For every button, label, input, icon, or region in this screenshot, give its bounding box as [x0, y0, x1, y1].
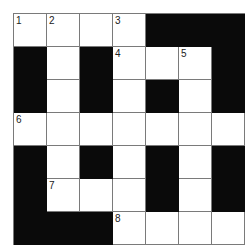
- crossword-cell[interactable]: 3: [113, 14, 146, 47]
- black-square: [212, 47, 245, 80]
- crossword-cell[interactable]: [212, 212, 245, 245]
- crossword-cell[interactable]: 8: [113, 212, 146, 245]
- crossword-cell[interactable]: [146, 212, 179, 245]
- crossword-cell[interactable]: [113, 146, 146, 179]
- crossword-cell[interactable]: [113, 113, 146, 146]
- crossword-cell[interactable]: 4: [113, 47, 146, 80]
- black-square: [146, 179, 179, 212]
- black-square: [80, 146, 113, 179]
- clue-number: 3: [115, 15, 121, 26]
- black-square: [14, 179, 47, 212]
- crossword-cell[interactable]: [47, 146, 80, 179]
- black-square: [212, 14, 245, 47]
- crossword-cell[interactable]: [212, 113, 245, 146]
- crossword-cell[interactable]: [179, 80, 212, 113]
- crossword-cell[interactable]: [146, 113, 179, 146]
- black-square: [14, 47, 47, 80]
- crossword-cell[interactable]: 6: [14, 113, 47, 146]
- black-square: [212, 146, 245, 179]
- clue-number: 4: [115, 48, 121, 59]
- crossword-cell[interactable]: [80, 179, 113, 212]
- black-square: [146, 80, 179, 113]
- crossword-cell[interactable]: [47, 47, 80, 80]
- crossword-cell[interactable]: [80, 113, 113, 146]
- black-square: [80, 47, 113, 80]
- black-square: [14, 80, 47, 113]
- crossword-cell[interactable]: [179, 212, 212, 245]
- black-square: [179, 14, 212, 47]
- crossword-cell[interactable]: [179, 113, 212, 146]
- black-square: [212, 80, 245, 113]
- black-square: [80, 212, 113, 245]
- black-square: [14, 146, 47, 179]
- clue-number: 6: [16, 114, 22, 125]
- clue-number: 7: [49, 180, 55, 191]
- crossword-cell[interactable]: [179, 179, 212, 212]
- crossword-cell[interactable]: 1: [14, 14, 47, 47]
- black-square: [14, 212, 47, 245]
- crossword-cell[interactable]: 2: [47, 14, 80, 47]
- crossword-cell[interactable]: [47, 113, 80, 146]
- crossword-cell[interactable]: [47, 80, 80, 113]
- crossword-cell[interactable]: [113, 179, 146, 212]
- crossword-cell[interactable]: 5: [179, 47, 212, 80]
- crossword-cell[interactable]: [146, 47, 179, 80]
- black-square: [212, 179, 245, 212]
- clue-number: 1: [16, 15, 22, 26]
- black-square: [146, 14, 179, 47]
- black-square: [146, 146, 179, 179]
- crossword-cell[interactable]: [113, 80, 146, 113]
- crossword-cell[interactable]: [80, 14, 113, 47]
- black-square: [47, 212, 80, 245]
- black-square: [80, 80, 113, 113]
- clue-number: 2: [49, 15, 55, 26]
- crossword-grid: 12345678: [13, 13, 245, 245]
- crossword-cell[interactable]: 7: [47, 179, 80, 212]
- crossword-cell[interactable]: [179, 146, 212, 179]
- clue-number: 5: [181, 48, 187, 59]
- clue-number: 8: [115, 213, 121, 224]
